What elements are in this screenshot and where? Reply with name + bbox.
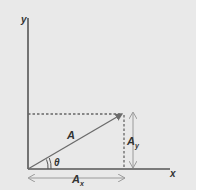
vector-a [28,114,122,169]
vector-label: A [66,129,75,141]
diagram-panel: y x A θ Ay Ax [0,0,196,190]
x-component-label: Ax [71,173,85,187]
y-axis-label: y [20,14,27,25]
angle-label: θ [54,157,60,168]
vector-diagram: y x A θ Ay Ax [0,0,205,196]
x-axis-label: x [169,168,176,179]
angle-arc [47,160,49,170]
angle-arc-inner [49,158,51,169]
